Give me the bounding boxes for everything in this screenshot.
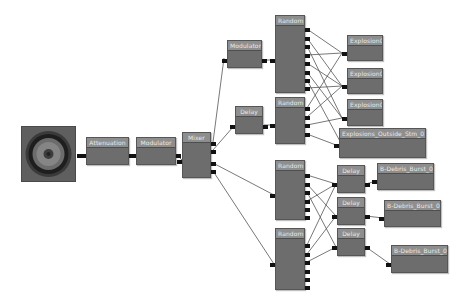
node-title: Random [276, 229, 304, 239]
input-pin[interactable] [230, 125, 235, 129]
delay-node[interactable]: Delay [337, 197, 365, 225]
node-title: Explosion02 [348, 69, 382, 79]
output-pin[interactable] [305, 208, 310, 212]
random-node[interactable]: Random [275, 228, 305, 290]
node-title: Random [276, 161, 304, 171]
output-pin[interactable] [305, 87, 310, 91]
node-title: Delay [338, 166, 364, 176]
output-pin[interactable] [365, 246, 370, 250]
delay-node[interactable]: Delay [337, 165, 365, 193]
node-title: B-Debris_Burst_02 [385, 201, 440, 211]
input-pin[interactable] [270, 263, 275, 267]
delay-node[interactable]: Delay [235, 106, 263, 134]
input-pin[interactable] [270, 194, 275, 198]
output-pin[interactable] [365, 215, 370, 219]
output-pin[interactable] [211, 162, 216, 166]
output-pin[interactable] [305, 253, 310, 257]
output-pin[interactable] [305, 28, 310, 32]
output-pin[interactable] [262, 59, 267, 63]
node-title: B-Debris_Burst_01 [378, 164, 433, 174]
output-pin[interactable] [176, 154, 181, 158]
output-pin[interactable] [305, 286, 310, 290]
node-title: Random [276, 16, 304, 26]
random-node[interactable]: Random [275, 160, 305, 220]
output-pin[interactable] [305, 278, 310, 282]
delay-node[interactable]: Delay [337, 228, 365, 256]
input-pin[interactable] [177, 160, 182, 164]
node-title: Modulator [228, 41, 261, 51]
wave-player-node[interactable]: B-Debris_Burst_02 [384, 200, 441, 227]
node-title: Random [276, 98, 304, 108]
random-node[interactable]: Random [275, 97, 305, 144]
output-pin[interactable] [305, 261, 310, 265]
input-pin[interactable] [342, 117, 347, 121]
output-pin[interactable] [305, 191, 310, 195]
output-pin[interactable] [305, 107, 310, 111]
input-pin[interactable] [270, 124, 275, 128]
output-pin[interactable] [305, 270, 310, 274]
output-pin[interactable] [305, 183, 310, 187]
output-pin[interactable] [305, 116, 310, 120]
speaker-icon [22, 127, 75, 181]
node-title: Mixer [183, 133, 210, 143]
output-pin[interactable] [211, 170, 216, 174]
output-pin[interactable] [305, 133, 310, 137]
node-title: Delay [338, 198, 364, 208]
input-pin[interactable] [222, 59, 227, 63]
input-pin[interactable] [332, 215, 337, 219]
sound-output-node[interactable] [21, 126, 76, 182]
wave-player-node[interactable]: Explosions_Outside_Stm_01 [339, 128, 426, 158]
input-pin[interactable] [131, 154, 136, 158]
output-pin[interactable] [305, 37, 310, 41]
modulator-node[interactable]: Modulator [227, 40, 262, 68]
output-pin[interactable] [305, 216, 310, 220]
wave-player-node[interactable]: B-Debris_Burst_01 [377, 163, 434, 190]
random-node[interactable]: Random [275, 15, 305, 93]
wave-player-node[interactable]: Explosion02 [347, 68, 383, 94]
node-title: Delay [338, 229, 364, 239]
input-pin[interactable] [334, 144, 339, 148]
node-title: Modulator [137, 138, 175, 148]
input-pin[interactable] [342, 85, 347, 89]
node-title: B-Debris_Burst_03 [392, 246, 447, 256]
node-title: Explosion01 [348, 36, 382, 46]
output-pin[interactable] [365, 183, 370, 187]
output-pin[interactable] [305, 71, 310, 75]
output-pin[interactable] [305, 45, 310, 49]
output-pin[interactable] [211, 142, 216, 146]
output-pin[interactable] [263, 125, 268, 129]
wave-player-node[interactable]: B-Debris_Burst_03 [391, 245, 448, 273]
output-pin[interactable] [305, 54, 310, 58]
input-pin[interactable] [342, 52, 347, 56]
wave-player-node[interactable]: Explosion03 [347, 99, 383, 126]
node-title: Delay [236, 107, 262, 117]
input-pin[interactable] [379, 217, 384, 221]
input-pin[interactable] [332, 246, 337, 250]
node-title: Attenuation [87, 138, 128, 148]
output-pin[interactable] [305, 79, 310, 83]
wave-player-node[interactable]: Explosion01 [347, 35, 383, 61]
input-pin[interactable] [372, 180, 377, 184]
input-pin[interactable] [386, 263, 391, 267]
attenuation-node[interactable]: Attenuation [86, 137, 129, 165]
node-title: Explosions_Outside_Stm_01 [340, 129, 425, 139]
output-pin[interactable] [305, 244, 310, 248]
output-pin[interactable] [305, 174, 310, 178]
sound-cue-graph-canvas[interactable]: Attenuation Modulator Mixer Modulator De… [0, 0, 466, 304]
node-title: Explosion03 [348, 100, 382, 110]
output-pin[interactable] [211, 150, 216, 154]
input-pin[interactable] [332, 183, 337, 187]
input-pin[interactable] [270, 59, 275, 63]
output-pin[interactable] [305, 124, 310, 128]
output-pin[interactable] [305, 62, 310, 66]
mixer-node[interactable]: Mixer [182, 132, 211, 178]
output-pin[interactable] [305, 200, 310, 204]
input-pin[interactable] [81, 154, 86, 158]
modulator-node[interactable]: Modulator [136, 137, 176, 165]
